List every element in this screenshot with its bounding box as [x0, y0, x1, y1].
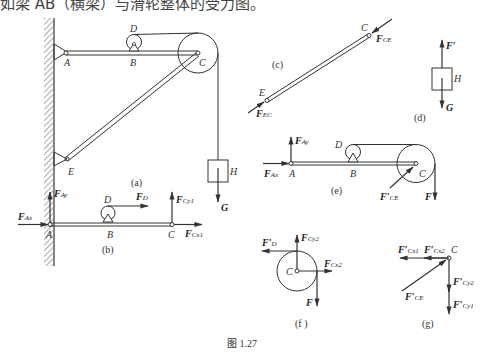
- force-FEC: FEC: [255, 108, 272, 119]
- force-FCy2: FCy2: [300, 232, 319, 243]
- svg-text:B: B: [107, 229, 113, 240]
- force-FAx: FAx: [263, 168, 279, 179]
- svg-text:(d): (d): [414, 112, 426, 124]
- svg-text:H: H: [229, 166, 238, 177]
- force-FAy: FAy: [53, 188, 69, 199]
- svg-text:G: G: [221, 202, 229, 213]
- panel-c: C E FCE FEC (c): [248, 19, 392, 119]
- svg-text:C: C: [286, 266, 293, 277]
- svg-text:C: C: [199, 57, 206, 68]
- svg-text:D: D: [103, 194, 112, 205]
- force-FCy2-prime: F′Cy2: [452, 276, 474, 287]
- force-FAy: FAy: [294, 135, 310, 146]
- panel-d: F′ G H (d): [414, 40, 462, 124]
- panel-e: FAy FAx F′CE F D A B C (e): [263, 135, 435, 202]
- force-FD: FD: [135, 191, 148, 202]
- svg-text:D: D: [334, 139, 343, 150]
- svg-text:(e): (e): [331, 185, 342, 197]
- svg-text:F: F: [424, 191, 432, 202]
- svg-text:E: E: [258, 87, 265, 98]
- force-FCx2-prime: F′Cx2: [423, 244, 445, 255]
- svg-text:A: A: [45, 229, 53, 240]
- panel-g: F′Cx1 F′Cx2 C F′Cy2 F′Cy1 F′CE (g): [397, 244, 474, 330]
- svg-text:(a): (a): [131, 177, 142, 189]
- svg-text:A: A: [63, 57, 71, 68]
- force-FCy1: FCy1: [175, 194, 194, 205]
- svg-text:D: D: [129, 23, 138, 34]
- svg-text:G: G: [446, 102, 454, 113]
- force-FCx2: FCx2: [323, 258, 342, 269]
- panel-a: A B C D E H G (a): [44, 18, 238, 266]
- force-FCx1-prime: F′Cx1: [397, 244, 419, 255]
- force-FD-prime: F′D: [261, 237, 277, 248]
- svg-text:(g): (g): [422, 318, 434, 330]
- figure-1-27: A B C D E H G (a) FAx FAy FD FCy1 FCx1 D…: [0, 0, 485, 356]
- force-FCx1: FCx1: [184, 228, 203, 239]
- svg-text:(c): (c): [272, 59, 283, 71]
- svg-text:E: E: [67, 166, 74, 177]
- force-FAx: FAx: [17, 211, 33, 222]
- svg-text:A: A: [288, 168, 296, 179]
- svg-text:B: B: [130, 57, 136, 68]
- force-FCy1-prime: F′Cy1: [452, 299, 474, 310]
- panel-f: F′D FCy2 FCx2 F C (f ): [261, 232, 342, 330]
- svg-text:(b): (b): [102, 244, 114, 256]
- svg-text:C: C: [361, 22, 368, 33]
- svg-text:F: F: [305, 297, 313, 308]
- svg-text:F′: F′: [445, 40, 456, 51]
- svg-text:B: B: [350, 168, 356, 179]
- figure-caption: 图 1.27: [227, 338, 257, 349]
- svg-text:(f ): (f ): [295, 318, 308, 330]
- svg-text:C: C: [419, 168, 426, 179]
- force-FCE-prime: F′CE: [379, 191, 399, 202]
- svg-text:H: H: [453, 73, 462, 84]
- force-FCE: FCE: [375, 33, 392, 44]
- svg-text:C: C: [168, 229, 175, 240]
- force-FCE-prime: F′CE: [404, 291, 424, 302]
- svg-text:C: C: [451, 244, 458, 255]
